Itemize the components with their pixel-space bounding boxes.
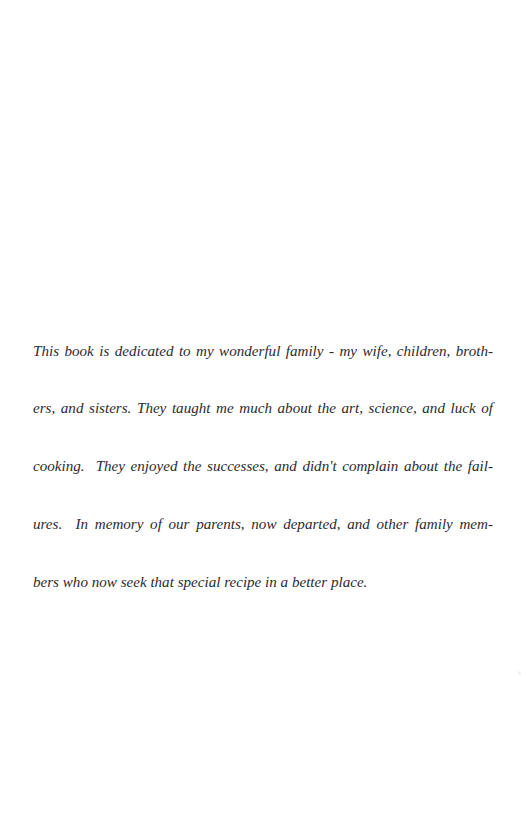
dedication-text-block: This book is dedicated to my wonderful f… (33, 303, 493, 631)
dedication-line-4-text: ures. In memory of our parents, now depa… (33, 516, 493, 532)
dedication-line-3: cooking. They enjoyed the successes, and… (33, 457, 493, 476)
dedication-line-2-text: ers, and sisters. They taught me much ab… (33, 400, 493, 416)
scan-artifact-speckle (518, 671, 521, 675)
dedication-line-3-text: cooking. They enjoyed the successes, and… (33, 458, 493, 474)
dedication-line-5: bers who now seek that special recipe in… (33, 573, 493, 592)
dedication-line-5-text: bers who now seek that special recipe in… (33, 574, 367, 590)
dedication-line-1: This book is dedicated to my wonderful f… (33, 342, 493, 361)
dedication-line-1-text: This book is dedicated to my wonderful f… (33, 343, 493, 359)
dedication-line-2: ers, and sisters. They taught me much ab… (33, 399, 493, 418)
document-page: This book is dedicated to my wonderful f… (0, 0, 526, 837)
dedication-line-4: ures. In memory of our parents, now depa… (33, 515, 493, 534)
dedication-paragraph: This book is dedicated to my wonderful f… (33, 303, 493, 631)
